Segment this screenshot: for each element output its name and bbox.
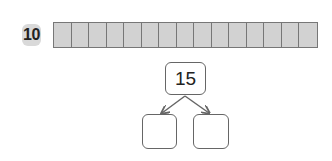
bond-part-left-input[interactable] [142, 114, 177, 149]
bond-whole-value: 15 [175, 68, 196, 90]
arrow-left-icon [162, 96, 185, 113]
bond-whole-box: 15 [165, 62, 206, 95]
arrow-right-icon [185, 96, 209, 113]
bond-part-right-input[interactable] [193, 114, 229, 149]
